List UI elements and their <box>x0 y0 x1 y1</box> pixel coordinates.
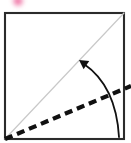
origami-figure-svg <box>0 0 131 143</box>
origami-diagram: Origami fold step diagram valley fold ex… <box>0 0 131 143</box>
